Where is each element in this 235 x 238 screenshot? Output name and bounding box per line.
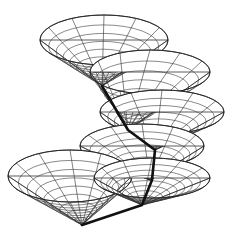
light-cone-diagram (0, 0, 235, 238)
cones-layer (8, 15, 224, 225)
